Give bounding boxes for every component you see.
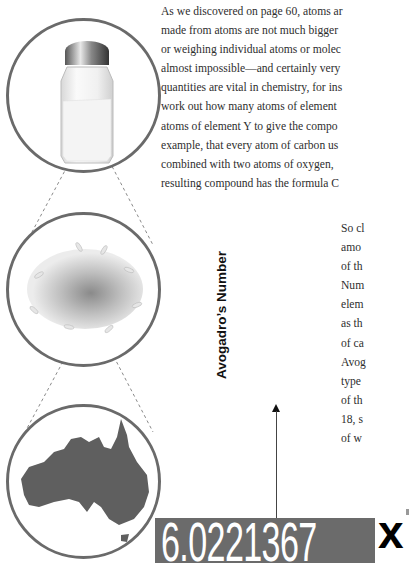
times-symbol: x <box>378 509 404 555</box>
salt-shaker-icon <box>9 21 158 170</box>
australia-map-circle <box>6 404 161 559</box>
salt-shaker-circle <box>6 18 161 173</box>
avogadros-number-label: Avogadro’s Number <box>210 252 232 378</box>
rice-pile-circle <box>6 212 161 367</box>
rice-pile-icon <box>9 215 158 364</box>
exponent-fragment <box>406 509 409 515</box>
avogadro-number-value: 6.0221367 <box>161 510 317 563</box>
australia-map-icon <box>9 407 158 556</box>
avogadro-number-box: 6.0221367 <box>155 518 375 563</box>
arrow-line <box>276 411 277 518</box>
